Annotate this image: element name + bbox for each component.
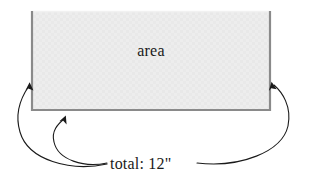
total-measurement-label: total: 12"	[110, 155, 171, 173]
area-rectangle-fill	[32, 12, 271, 111]
arrow-to-bottom-side	[53, 119, 107, 164]
diagram-canvas: area total: 12"	[0, 0, 310, 182]
area-label: area	[31, 42, 271, 60]
arrow-to-bottom-side-head	[59, 116, 66, 125]
